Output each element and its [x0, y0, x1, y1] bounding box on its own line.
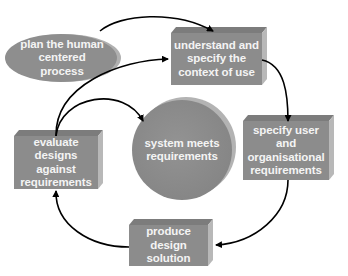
edge-produce-to-evaluate — [56, 191, 129, 247]
node-plan-label: plan the human centered process — [10, 34, 114, 82]
hcd-process-diagram: plan the human centered process understa… — [0, 0, 348, 276]
node-specify-label: specify user and organisational requirem… — [243, 121, 329, 180]
node-meets-label: system meets requirements — [132, 130, 232, 170]
node-evaluate-label: evaluate designs against requirements — [12, 136, 100, 189]
node-understand-label: understand and specify the context of us… — [171, 33, 262, 85]
edge-specify-to-produce — [216, 180, 288, 245]
node-produce-label: produce design solution — [129, 225, 208, 266]
